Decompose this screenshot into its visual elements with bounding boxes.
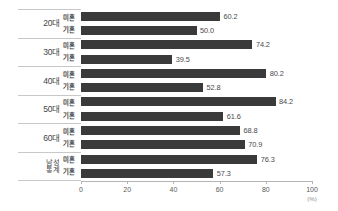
bar-group: 76.357.3 [81, 152, 312, 181]
x-axis-line [81, 181, 312, 182]
category-row: 50대미혼기혼 [18, 95, 81, 124]
series-label-stack: 미혼기혼 [63, 154, 80, 178]
series-label-stack: 미혼기혼 [63, 40, 80, 64]
bar-value-label: 57.3 [217, 169, 231, 178]
bar-value-label: 61.6 [227, 112, 241, 121]
category-label-line: 통계 [46, 166, 60, 174]
series-label: 기혼 [63, 81, 75, 93]
bar-value-label: 52.8 [206, 83, 220, 92]
series-label: 기혼 [63, 138, 75, 150]
bar-group: 80.252.8 [81, 66, 312, 95]
category-row: 30대미혼기혼 [18, 38, 81, 67]
category-label: 20대 [43, 19, 60, 28]
bar-row: 52.8 [81, 80, 312, 94]
bar-row: 39.5 [81, 52, 312, 66]
x-axis-tick-label: 0 [79, 186, 83, 193]
bar-value-label: 70.9 [248, 140, 262, 149]
series-label: 미혼 [63, 154, 75, 166]
category-row: 20대미혼기혼 [18, 9, 81, 38]
category-label: 60대 [43, 134, 60, 143]
series-label-stack: 미혼기혼 [63, 97, 80, 121]
x-axis-tick-mark [312, 181, 313, 184]
bar-row: 84.2 [81, 95, 312, 109]
category-row: 남성통계미혼기혼 [18, 152, 81, 181]
horizontal-bar-chart: 20대미혼기혼30대미혼기혼40대미혼기혼50대미혼기혼60대미혼기혼남성통계미… [0, 0, 338, 211]
bar [81, 169, 213, 178]
x-axis-tick-label: 40 [169, 186, 177, 193]
x-axis-tick-label: 20 [123, 186, 131, 193]
bar-row: 50.0 [81, 23, 312, 37]
bar-group: 68.870.9 [81, 123, 312, 152]
category-label: 남성통계 [46, 159, 60, 174]
category-label: 30대 [43, 48, 60, 57]
plot-area: 60.250.074.239.580.252.884.261.668.870.9… [81, 9, 312, 181]
bar [81, 112, 223, 121]
series-label: 미혼 [63, 97, 75, 109]
bar-value-label: 76.3 [261, 155, 275, 164]
category-label-table: 20대미혼기혼30대미혼기혼40대미혼기혼50대미혼기혼60대미혼기혼남성통계미… [18, 9, 81, 181]
bar-value-label: 84.2 [279, 97, 293, 106]
bar-row: 60.2 [81, 9, 312, 23]
bar-value-label: 39.5 [176, 55, 190, 64]
series-label: 기혼 [63, 110, 75, 122]
series-label-stack: 미혼기혼 [63, 126, 80, 150]
series-label: 미혼 [63, 40, 75, 52]
series-label: 기혼 [63, 166, 75, 178]
bar-row: 76.3 [81, 152, 312, 166]
bar [81, 26, 197, 35]
x-axis-tick-mark [127, 181, 128, 184]
bar [81, 69, 266, 78]
bar-group: 74.239.5 [81, 38, 312, 67]
series-label: 미혼 [63, 69, 75, 81]
bar-row: 80.2 [81, 66, 312, 80]
category-label: 50대 [43, 105, 60, 114]
x-axis-tick-mark [266, 181, 267, 184]
series-label: 기혼 [63, 52, 75, 64]
category-label: 40대 [43, 77, 60, 86]
bar-row: 74.2 [81, 38, 312, 52]
x-axis-tick-mark [220, 181, 221, 184]
bar [81, 83, 203, 92]
x-axis-tick-label: 100 [306, 186, 318, 193]
bar-value-label: 50.0 [200, 26, 214, 35]
series-label-stack: 미혼기혼 [63, 12, 80, 36]
bar [81, 55, 172, 64]
x-axis-unit-label: (%) [307, 196, 316, 202]
series-label: 미혼 [63, 12, 75, 24]
bar [81, 97, 276, 106]
bar [81, 12, 220, 21]
category-row: 60대미혼기혼 [18, 123, 81, 152]
series-label: 기혼 [63, 24, 75, 36]
series-label-stack: 미혼기혼 [63, 69, 80, 93]
bar-value-label: 80.2 [270, 69, 284, 78]
bar-row: 70.9 [81, 138, 312, 152]
bar [81, 126, 240, 135]
x-axis-tick-label: 60 [216, 186, 224, 193]
x-axis-tick-mark [81, 181, 82, 184]
x-axis-tick-label: 80 [262, 186, 270, 193]
bar-row: 61.6 [81, 109, 312, 123]
x-axis-tick-mark [173, 181, 174, 184]
bar-value-label: 68.8 [243, 126, 257, 135]
bar-group: 60.250.0 [81, 9, 312, 38]
bar-value-label: 74.2 [256, 40, 270, 49]
bar-row: 57.3 [81, 166, 312, 180]
bar [81, 40, 252, 49]
bar [81, 140, 245, 149]
category-row: 40대미혼기혼 [18, 66, 81, 95]
series-label: 미혼 [63, 126, 75, 138]
bar-group: 84.261.6 [81, 95, 312, 124]
bar-value-label: 60.2 [224, 12, 238, 21]
bar-row: 68.8 [81, 123, 312, 137]
bar [81, 155, 257, 164]
